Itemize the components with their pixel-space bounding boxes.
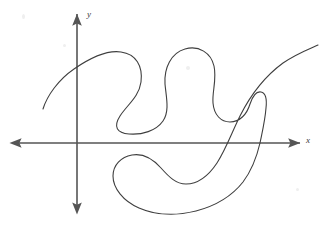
axes-group (12, 14, 300, 212)
x-axis-label: x (306, 136, 310, 145)
squiggle-curve (43, 45, 318, 214)
curve-group (43, 45, 318, 214)
figure-canvas: y x (0, 0, 330, 247)
y-axis-label: y (87, 10, 91, 19)
diagram-svg (0, 0, 330, 247)
